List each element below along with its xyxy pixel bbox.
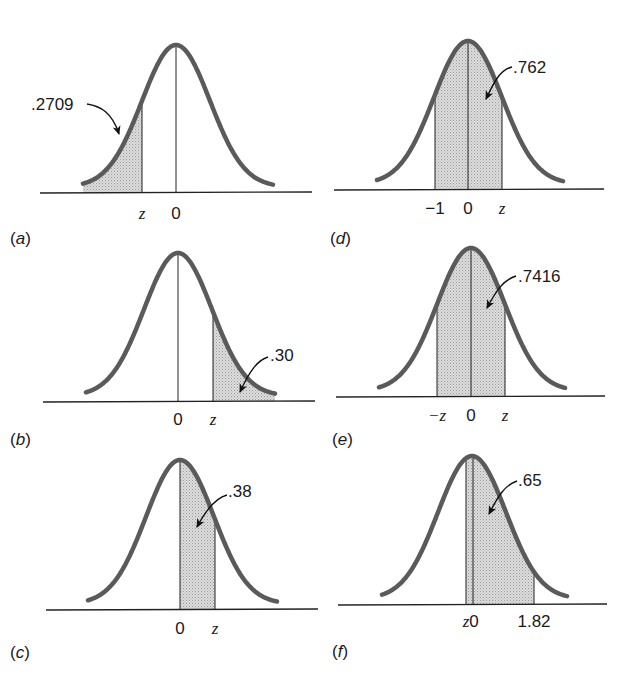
area-value-label: .38 bbox=[228, 482, 252, 501]
panel-e: −z0z.7416(e) bbox=[332, 248, 605, 449]
tick-label: z bbox=[211, 619, 219, 638]
panel-label: (b) bbox=[10, 430, 31, 449]
tick-label: 0 bbox=[466, 406, 475, 425]
pointer-arrow-icon bbox=[87, 104, 119, 134]
tick-label: 0 bbox=[463, 199, 472, 218]
panel-d: −10z.762(d) bbox=[330, 41, 604, 248]
tick-label: 0 bbox=[173, 410, 182, 429]
x-axis bbox=[336, 396, 605, 397]
panel-f: z01.82.65(f) bbox=[332, 456, 607, 661]
tick-label: 0 bbox=[175, 619, 184, 638]
panel-a: z0.2709(a) bbox=[10, 45, 312, 248]
area-value-label: .30 bbox=[270, 346, 294, 365]
x-axis bbox=[338, 604, 607, 605]
area-value-label: .65 bbox=[518, 471, 542, 490]
area-value-label: .762 bbox=[513, 58, 546, 77]
tick-label: 0 bbox=[469, 612, 478, 631]
normal-curves-figure: z0.2709(a)0z.30(b)0z.38(c)−10z.762(d)−z0… bbox=[0, 0, 640, 691]
panel-label: (d) bbox=[330, 229, 351, 248]
tick-label: 0 bbox=[171, 204, 180, 223]
x-axis bbox=[334, 189, 604, 190]
tick-label: 1.82 bbox=[517, 612, 550, 631]
x-axis bbox=[46, 609, 318, 610]
panel-label: (e) bbox=[332, 430, 353, 449]
area-value-label: .7416 bbox=[518, 267, 561, 286]
tick-label: z bbox=[138, 204, 146, 223]
panel-label: (a) bbox=[10, 229, 31, 248]
panel-label: (c) bbox=[10, 643, 30, 662]
tick-label: −z bbox=[428, 406, 446, 425]
area-value-label: .2709 bbox=[31, 95, 74, 114]
tick-label: −1 bbox=[425, 199, 444, 218]
tick-label: z bbox=[501, 406, 509, 425]
x-axis bbox=[40, 192, 312, 193]
panel-label: (f) bbox=[332, 642, 348, 661]
tick-label: z bbox=[209, 410, 217, 429]
normal-curve bbox=[86, 253, 275, 394]
tick-label: z bbox=[498, 199, 506, 218]
panel-c: 0z.38(c) bbox=[10, 460, 318, 662]
panel-b: 0z.30(b) bbox=[10, 253, 315, 449]
normal-curve bbox=[83, 45, 273, 185]
